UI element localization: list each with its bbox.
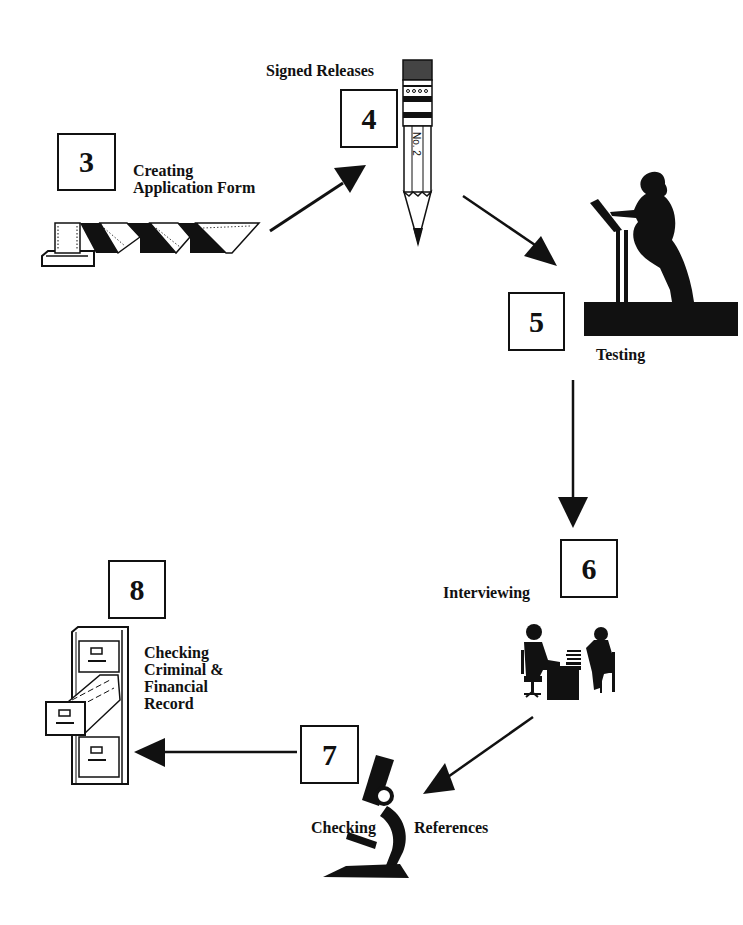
pencil-icon: No. 2 [403,60,432,247]
step-label-6: Interviewing [443,584,530,601]
step-number: 4 [362,102,377,136]
step-number: 8 [130,573,145,607]
step-box-7: 7 [300,725,359,784]
step-label-7a: Checking [311,819,376,836]
step-label-8: Checking Criminal & Financial Record [144,644,224,712]
step-label-4: Signed Releases [266,62,374,79]
arrow-5-to-6 [558,380,588,528]
step-number: 5 [529,305,544,339]
arrow-4-to-5 [463,196,557,266]
printer-paper-icon [42,223,259,266]
step-box-8: 8 [108,560,166,619]
arrow-6-to-7 [423,717,533,794]
interview-desk-icon [521,624,615,700]
step-number: 7 [322,738,337,772]
step-label-5: Testing [596,346,645,363]
step-number: 6 [582,552,597,586]
hiring-process-diagram: No. 2 [0,0,743,925]
file-cabinet-icon [46,627,128,784]
step-box-6: 6 [560,539,618,598]
arrow-3-to-4 [270,165,366,231]
step-label-7b: References [414,819,488,836]
person-at-lectern-icon [584,172,738,336]
step-box-3: 3 [57,133,116,191]
pencil-text: No. 2 [411,132,422,156]
step-number: 3 [79,145,94,179]
step-label-3: Creating Application Form [133,162,255,196]
arrow-7-to-8 [134,738,297,767]
step-box-4: 4 [340,89,398,148]
step-box-5: 5 [508,292,565,351]
